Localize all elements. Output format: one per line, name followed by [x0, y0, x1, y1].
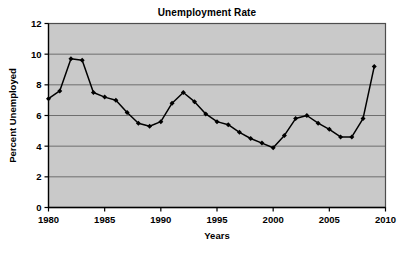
x-axis-title: Years [204, 230, 229, 241]
unemployment-rate-chart: Unemployment Rate 0246810121980198519901… [0, 0, 414, 254]
y-axis-tick-label: 4 [36, 141, 42, 152]
x-axis-tick-label: 1980 [38, 214, 59, 225]
y-axis-tick-label: 8 [36, 79, 41, 90]
y-axis-tick-label: 10 [31, 49, 42, 60]
x-axis-tick-label: 1995 [206, 214, 228, 225]
x-axis-tick-label: 2005 [319, 214, 341, 225]
y-axis-tick-label: 6 [36, 110, 41, 121]
y-axis-title: Percent Unemployed [7, 68, 18, 163]
y-axis-tick-label: 12 [31, 18, 42, 29]
x-axis-tick-label: 1985 [94, 214, 116, 225]
y-axis-tick-label: 0 [36, 202, 41, 213]
y-axis-tick-label: 2 [36, 171, 41, 182]
x-axis-tick-label: 2010 [375, 214, 396, 225]
chart-plot-area: 0246810121980198519901995200020052010Yea… [0, 0, 414, 254]
x-axis-tick-label: 2000 [263, 214, 284, 225]
x-axis-tick-label: 1990 [150, 214, 171, 225]
